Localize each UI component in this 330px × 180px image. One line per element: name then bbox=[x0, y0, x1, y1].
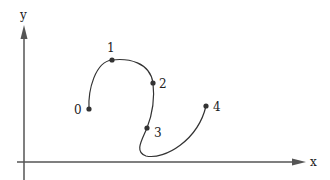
point-label: 2 bbox=[159, 77, 167, 91]
spline-curve bbox=[89, 60, 206, 157]
control-point-4: 4 bbox=[203, 100, 221, 114]
point-label: 1 bbox=[107, 41, 115, 55]
x-axis-arrow-icon bbox=[292, 159, 306, 166]
y-axis-label: y bbox=[19, 8, 27, 22]
spline-diagram: y x 0 1 2 3 4 bbox=[0, 0, 330, 180]
point-marker-icon bbox=[203, 103, 208, 108]
point-marker-icon bbox=[150, 80, 155, 85]
x-axis-label: x bbox=[310, 155, 317, 169]
y-axis: y bbox=[19, 8, 28, 180]
point-label: 0 bbox=[74, 103, 82, 117]
point-label: 3 bbox=[154, 126, 162, 140]
y-axis-arrow-icon bbox=[21, 25, 28, 39]
point-marker-icon bbox=[144, 125, 149, 130]
x-axis: x bbox=[17, 155, 317, 169]
point-marker-icon bbox=[86, 106, 91, 111]
point-marker-icon bbox=[109, 57, 114, 62]
control-point-2: 2 bbox=[150, 77, 166, 91]
control-point-1: 1 bbox=[107, 41, 115, 63]
point-label: 4 bbox=[213, 100, 221, 114]
control-point-3: 3 bbox=[144, 125, 161, 140]
